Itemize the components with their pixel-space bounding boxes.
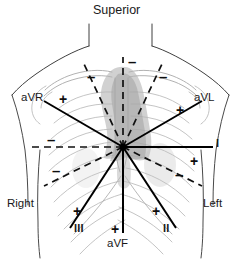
polarity-plus-II: + [152, 204, 160, 218]
polarity-plus-aVF: + [111, 222, 119, 236]
polarity-minus-aVF: – [128, 54, 136, 69]
figure-canvas: Superior Right Left aVR aVL I II III aVF… [0, 0, 242, 262]
polarity-minus-aVR: – [175, 167, 183, 182]
polarity-minus-I: – [47, 132, 55, 147]
axis-convergence-point [120, 144, 127, 151]
polarity-plus-I: + [190, 154, 198, 168]
superior-label: Superior [93, 4, 140, 17]
left-side-label: Left [203, 198, 222, 210]
polarity-plus-aVL: + [176, 103, 184, 117]
polarity-plus-aVR: + [59, 92, 67, 106]
lead-label-II: II [163, 223, 170, 234]
right-side-label: Right [7, 198, 34, 210]
lead-label-III: III [74, 223, 84, 234]
lead-label-aVR: aVR [21, 92, 43, 104]
polarity-minus-aVL: – [52, 163, 60, 178]
lead-label-aVL: aVL [194, 92, 214, 104]
polarity-minus-II: – [87, 69, 95, 84]
lead-label-aVF: aVF [107, 238, 128, 250]
polarity-plus-III: + [73, 204, 81, 218]
lead-label-I: I [216, 138, 219, 149]
thorax-lead-axis-illustration [0, 0, 242, 262]
polarity-minus-III: – [159, 69, 167, 84]
